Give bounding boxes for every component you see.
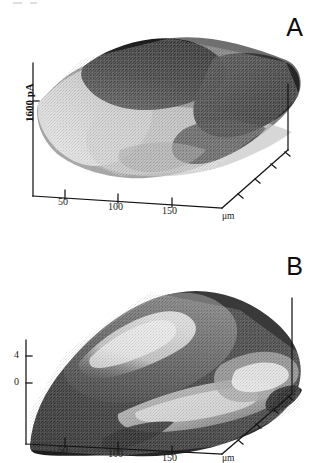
xaxis-unit-b: μm [222,454,234,463]
zaxis-label-a: 1600 pA [24,83,35,122]
xaxis-tick-50-a: 50 [58,197,68,207]
panel-a: 1600 pA 50 100 150 μm A [0,0,317,231]
xaxis-unit-a: μm [222,212,234,222]
axes-b [0,232,317,463]
xaxis-tick-100-b: 100 [108,449,123,459]
xaxis-tick-150-a: 150 [162,206,177,216]
panel-b: 4 0 50 100 150 μm B [0,232,317,463]
scan-artifact [30,2,37,4]
scan-artifact [13,2,22,4]
figure-container: 1600 pA 50 100 150 μm A [0,0,317,463]
axes-a [0,0,317,231]
xaxis-tick-150-b: 150 [162,453,177,463]
xaxis-tick-100-a: 100 [108,202,123,212]
panel-letter-a: A [286,15,303,40]
panel-letter-b: B [286,254,303,279]
xaxis-tick-50-b: 50 [58,445,68,455]
zaxis-tick-0-b: 0 [14,377,19,387]
zaxis-tick-4-b: 4 [14,350,19,360]
